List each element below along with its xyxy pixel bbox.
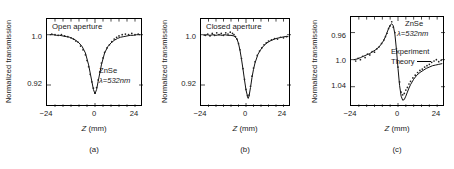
x-tick-b-3: 24 [272, 109, 292, 118]
figure-zscan-znse: Normalized transmission 1.0 0.92 Open ap… [0, 0, 454, 169]
y-tick-a-1: 1.0 [16, 32, 42, 41]
x-axis-label-c: Z (mm) [350, 124, 444, 133]
panel-b: Normalized transmission 1.0 0.92 Closed … [152, 0, 294, 169]
x-tick-b-2: 0 [235, 109, 255, 118]
x-tick-c-2: 0 [387, 109, 407, 118]
panel-a: Normalized transmission 1.0 0.92 Open ap… [0, 0, 152, 169]
panel-label-a: (a) [46, 145, 142, 154]
y-axis-label-a: Normalized transmission [2, 8, 16, 114]
y-tick-c-2: 1.0 [318, 56, 346, 65]
x-tick-c-1: −24 [340, 109, 360, 118]
x-tick-b-1: −24 [190, 109, 210, 118]
y-tick-b-2: 0.92 [166, 79, 196, 88]
panel-label-b: (b) [200, 145, 290, 154]
y-tick-c-1: 0.96 [314, 31, 346, 40]
plot-curve-c [351, 17, 445, 107]
panel-c: Normalized transmission 0.96 1.0 1.04 Zn… [294, 0, 454, 169]
plot-area-b: Closed aperture [200, 18, 290, 106]
plot-curve-a [47, 19, 143, 107]
plot-curve-b [201, 19, 291, 107]
y-tick-c-3: 1.04 [314, 81, 346, 90]
x-tick-a-1: −24 [36, 109, 56, 118]
plot-area-a: Open aperture ZnSe λ=532nm [46, 18, 142, 106]
x-tick-c-3: 24 [426, 109, 446, 118]
panel-label-c: (c) [350, 145, 444, 154]
x-axis-label-b: Z (mm) [200, 124, 290, 133]
plot-area-c: ZnSe λ=532nm Experiment Theory [350, 16, 444, 106]
x-axis-label-a: Z (mm) [46, 124, 142, 133]
x-tick-a-2: 0 [84, 109, 104, 118]
y-tick-a-2: 0.92 [12, 79, 42, 88]
x-tick-a-3: 24 [124, 109, 144, 118]
y-axis-label-b: Normalized transmission [158, 8, 172, 114]
y-tick-b-1: 1.0 [170, 32, 196, 41]
